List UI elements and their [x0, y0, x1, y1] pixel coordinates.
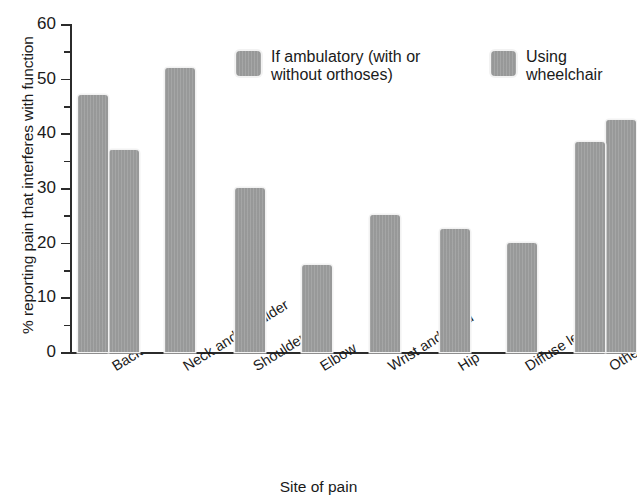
bar — [606, 120, 636, 352]
legend-entry: If ambulatory (with or without orthoses) — [236, 48, 420, 84]
bar-chart-figure: % reporting pain that interferes with fu… — [0, 0, 637, 501]
x-tick-label-wrapper: Back — [109, 360, 110, 361]
y-tick-minor — [64, 215, 70, 217]
y-tick-major — [61, 79, 70, 81]
y-tick-minor — [64, 325, 70, 327]
y-tick-minor — [64, 106, 70, 108]
x-tick-label-wrapper: Wrist and hand — [385, 360, 386, 361]
x-tick-label-wrapper: Other — [606, 360, 607, 361]
x-tick-label: Wrist and hand — [385, 360, 394, 374]
x-tick-label: Neck and shoulder — [180, 360, 189, 374]
x-axis-title: Site of pain — [0, 478, 637, 496]
y-tick-major — [61, 297, 70, 299]
bar — [109, 150, 139, 352]
y-tick-label: 60 — [22, 15, 56, 32]
y-tick-minor — [64, 51, 70, 53]
x-tick-label-wrapper: Neck and shoulder — [180, 360, 181, 361]
bar — [235, 188, 265, 352]
legend-label: Using wheelchair — [526, 48, 602, 84]
bar — [165, 68, 195, 352]
chart-legend: If ambulatory (with or without orthoses)… — [236, 48, 636, 106]
legend-entry: Using wheelchair — [491, 48, 602, 84]
x-tick-label-wrapper: Shoulder — [250, 360, 251, 361]
bar — [302, 265, 332, 352]
x-tick-label: Hip — [455, 360, 464, 374]
y-tick-minor — [64, 270, 70, 272]
bar — [370, 215, 400, 352]
x-tick-label: Other — [606, 360, 615, 374]
x-tick-label: Elbow — [317, 360, 326, 374]
y-tick-label: 30 — [22, 179, 56, 196]
legend-swatch-ambulatory — [236, 51, 261, 76]
x-tick-label: Shoulder — [250, 360, 259, 374]
x-tick-label-wrapper: Hip — [455, 360, 456, 361]
legend-label: If ambulatory (with or without orthoses) — [271, 48, 420, 84]
bar — [440, 229, 470, 352]
x-tick-label-wrapper: Elbow — [317, 360, 318, 361]
x-tick-label: Diffuse leg — [522, 360, 531, 374]
y-tick-major — [61, 352, 70, 354]
y-axis-line — [70, 24, 72, 352]
bar — [78, 95, 108, 352]
y-tick-major — [61, 24, 70, 26]
legend-swatch-wheelchair — [491, 51, 516, 76]
y-tick-minor — [64, 161, 70, 163]
bar — [507, 243, 537, 352]
y-tick-major — [61, 243, 70, 245]
y-tick-label: 50 — [22, 70, 56, 87]
y-tick-label: 10 — [22, 288, 56, 305]
x-tick-label-wrapper: Diffuse leg — [522, 360, 523, 361]
y-tick-label: 40 — [22, 124, 56, 141]
x-tick-label: Back — [109, 360, 118, 374]
y-tick-label: 20 — [22, 234, 56, 251]
y-tick-major — [61, 133, 70, 135]
y-tick-label: 0 — [22, 343, 56, 360]
y-tick-major — [61, 188, 70, 190]
bar — [575, 142, 605, 352]
